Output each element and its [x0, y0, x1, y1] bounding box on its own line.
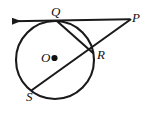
point-label-p: P [132, 11, 140, 24]
point-label-r: R [97, 48, 105, 61]
point-label-s: S [26, 90, 33, 103]
point-label-o: O [41, 51, 50, 64]
center-point-dot [51, 55, 57, 61]
point-label-q: Q [51, 5, 60, 18]
geometry-diagram-svg [0, 0, 151, 113]
geometry-figure: Q P R O S [0, 0, 151, 113]
tangent-line-segment [13, 19, 130, 21]
